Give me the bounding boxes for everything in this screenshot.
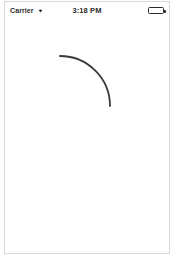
battery-full-icon: [148, 7, 164, 14]
device-frame: Carrier 3:18 PM: [4, 1, 170, 254]
wifi-icon: [37, 7, 44, 14]
status-bar-left-group: Carrier: [10, 7, 44, 14]
battery-cap: [164, 10, 166, 13]
app-content-area: [5, 19, 169, 253]
status-bar-right-group: [148, 7, 164, 14]
quarter-arc-shape: [60, 56, 110, 106]
drawing-canvas: [5, 19, 169, 253]
status-bar: Carrier 3:18 PM: [5, 2, 169, 19]
carrier-label: Carrier: [10, 7, 34, 14]
